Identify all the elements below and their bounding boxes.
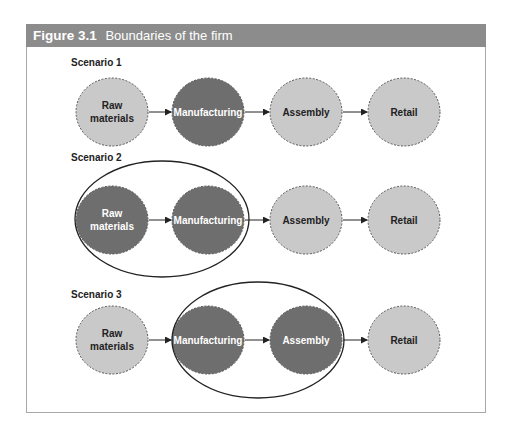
stage-label: Retail — [390, 335, 417, 346]
scenario-3-row: RawmaterialsManufacturingAssemblyRetail — [76, 282, 440, 398]
scenario-1-row: RawmaterialsManufacturingAssemblyRetail — [76, 78, 440, 146]
stage-label: Manufacturing — [174, 107, 243, 118]
boundaries-diagram: RawmaterialsManufacturingAssemblyRetailR… — [0, 0, 507, 432]
stage-node: Rawmaterials — [76, 186, 148, 254]
stage-label: materials — [90, 113, 134, 124]
stage-node: Manufacturing — [172, 78, 244, 146]
stage-node: Manufacturing — [172, 186, 244, 254]
stage-label: Manufacturing — [174, 215, 243, 226]
stage-label: Assembly — [282, 215, 330, 226]
stage-node: Assembly — [270, 78, 342, 146]
stage-node: Retail — [368, 186, 440, 254]
stage-label: Retail — [390, 107, 417, 118]
stage-label: materials — [90, 221, 134, 232]
stage-label: Raw — [102, 100, 123, 111]
stage-label: Manufacturing — [174, 335, 243, 346]
stage-label: Raw — [102, 208, 123, 219]
stage-node: Assembly — [270, 306, 342, 374]
stage-node: Manufacturing — [172, 306, 244, 374]
stage-label: Raw — [102, 328, 123, 339]
scenario-2-row: RawmaterialsManufacturingAssemblyRetail — [75, 161, 440, 277]
stage-label: Retail — [390, 215, 417, 226]
stage-node: Retail — [368, 78, 440, 146]
stage-node: Retail — [368, 306, 440, 374]
stage-label: Assembly — [282, 107, 330, 118]
stage-label: Assembly — [282, 335, 330, 346]
stage-node: Rawmaterials — [76, 306, 148, 374]
stage-node: Rawmaterials — [76, 78, 148, 146]
stage-node: Assembly — [270, 186, 342, 254]
stage-label: materials — [90, 341, 134, 352]
